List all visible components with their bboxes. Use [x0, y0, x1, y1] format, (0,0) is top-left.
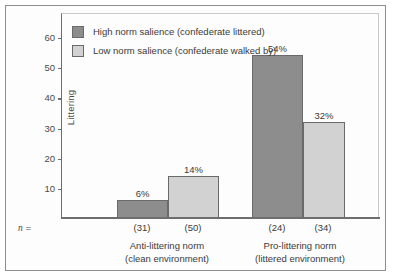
n-value-anti-low: (50): [185, 222, 202, 233]
bar-anti-low[interactable]: 14%: [168, 176, 219, 218]
bar-value-label: 6%: [136, 188, 150, 199]
y-axis-title: Littering: [65, 53, 76, 163]
y-tick-40: 40: [16, 92, 62, 104]
group-label-line2: (littered environment): [255, 253, 345, 266]
bar-value-label: 32%: [314, 110, 333, 121]
group-label-anti-littering: Anti-littering norm (clean environment): [125, 240, 209, 265]
y-tick-60: 60: [16, 32, 62, 44]
y-tick-10: 10: [16, 183, 62, 195]
n-value-pro-low: (34): [315, 222, 332, 233]
legend-label: High norm salience (confederate littered…: [93, 26, 265, 37]
legend-item-low-salience[interactable]: Low norm salience (confederate walked by…: [72, 41, 276, 60]
legend-swatch-light-icon: [72, 45, 84, 57]
bar-pro-high[interactable]: 54%: [252, 55, 303, 218]
figure-container: Littering 60 50 40 30 20 10 6% 14% 54% 3…: [5, 5, 386, 271]
group-label-line1: Pro-littering norm: [255, 240, 345, 253]
legend: High norm salience (confederate littered…: [72, 22, 276, 60]
n-value-anti-high: (31): [134, 222, 151, 233]
y-tick-50: 50: [16, 62, 62, 74]
group-label-line2: (clean environment): [125, 253, 209, 266]
bar-anti-high[interactable]: 6%: [117, 200, 168, 218]
legend-item-high-salience[interactable]: High norm salience (confederate littered…: [72, 22, 276, 41]
y-tick-30: 30: [16, 123, 62, 135]
bar-pro-low[interactable]: 32%: [303, 122, 345, 218]
x-axis-baseline: [61, 217, 380, 219]
legend-swatch-dark-icon: [72, 26, 84, 38]
legend-label: Low norm salience (confederate walked by…: [93, 45, 276, 56]
y-tick-20: 20: [16, 153, 62, 165]
group-label-pro-littering: Pro-littering norm (littered environment…: [255, 240, 345, 265]
group-label-line1: Anti-littering norm: [125, 240, 209, 253]
n-prefix-label: n =: [18, 222, 31, 233]
bar-value-label: 14%: [184, 164, 203, 175]
n-value-pro-high: (24): [269, 222, 286, 233]
plot-area: Littering 60 50 40 30 20 10 6% 14% 54% 3…: [61, 13, 379, 218]
